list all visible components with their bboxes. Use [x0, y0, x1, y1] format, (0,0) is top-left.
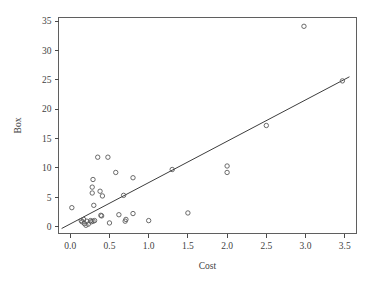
data-point [90, 191, 94, 195]
y-tick-label: 20 [42, 104, 52, 114]
data-points-group [70, 24, 345, 227]
x-tick-label: 1.5 [182, 241, 194, 251]
data-point [90, 185, 94, 189]
data-point [225, 164, 229, 168]
plot-frame-group [59, 18, 357, 234]
data-point [107, 221, 111, 225]
y-tick-label: 5 [47, 193, 52, 203]
x-axis-ticks: 0.00.51.01.52.02.53.03.5 [64, 234, 351, 251]
data-point [98, 189, 102, 193]
plot-canvas: 0.00.51.01.52.02.53.03.5 05101520253035 … [0, 0, 381, 290]
data-point [92, 203, 96, 207]
y-axis-label: Box [13, 117, 23, 133]
y-tick-label: 35 [42, 16, 52, 26]
x-axis-label: Cost [199, 261, 217, 271]
x-tick-label: 3.5 [339, 241, 351, 251]
data-point [106, 155, 110, 159]
x-tick-label: 0.5 [104, 241, 116, 251]
x-tick-label: 1.0 [143, 241, 155, 251]
plot-frame [59, 18, 357, 234]
x-tick-label: 2.0 [221, 241, 233, 251]
data-point [225, 170, 229, 174]
y-tick-label: 10 [42, 163, 52, 173]
data-point [100, 194, 104, 198]
y-axis-ticks: 05101520253035 [42, 16, 59, 231]
x-tick-label: 2.5 [260, 241, 272, 251]
data-point [264, 123, 268, 127]
x-tick-label: 3.0 [300, 241, 312, 251]
scatter-plot-figure: 0.00.51.01.52.02.53.03.5 05101520253035 … [0, 0, 381, 290]
data-point [302, 24, 306, 28]
data-point [131, 176, 135, 180]
y-tick-label: 0 [47, 222, 52, 232]
data-point [96, 155, 100, 159]
data-point [114, 170, 118, 174]
data-point [70, 205, 74, 209]
x-tick-label: 0.0 [64, 241, 76, 251]
data-point [131, 211, 135, 215]
y-tick-label: 15 [42, 134, 52, 144]
data-point [146, 218, 150, 222]
data-point [91, 177, 95, 181]
regression-line-group [62, 77, 350, 229]
regression-line [62, 77, 350, 229]
y-tick-label: 25 [42, 75, 52, 85]
data-point [117, 213, 121, 217]
data-point [186, 211, 190, 215]
y-tick-label: 30 [42, 46, 52, 56]
